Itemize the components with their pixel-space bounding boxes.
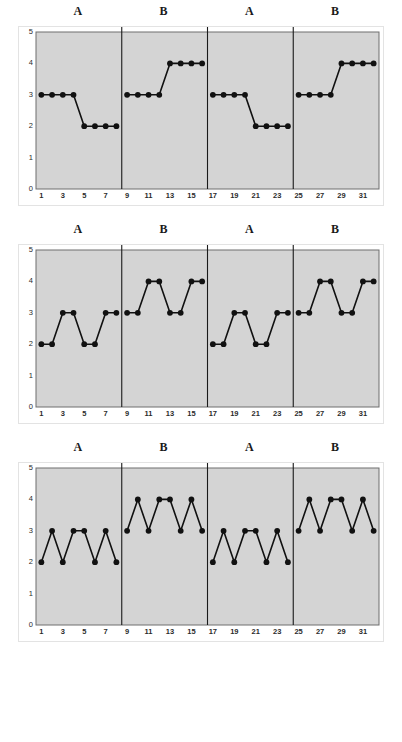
data-point-marker <box>81 123 87 129</box>
phase-label-a-3: A <box>245 4 254 19</box>
data-point-marker <box>264 123 270 129</box>
data-point-marker <box>349 528 355 534</box>
phase-label-b-4: B <box>331 4 339 19</box>
data-point-marker <box>156 279 162 285</box>
phase-label-strip: ABAB <box>0 436 402 462</box>
data-point-marker <box>146 92 152 98</box>
data-point-marker <box>124 92 130 98</box>
data-point-marker <box>124 528 130 534</box>
data-point-marker <box>92 123 98 129</box>
data-point-marker <box>296 92 302 98</box>
data-point-marker <box>317 528 323 534</box>
data-point-marker <box>38 92 44 98</box>
phase-label-strip: ABAB <box>0 0 402 26</box>
data-point-marker <box>167 497 173 503</box>
phase-label-b-4: B <box>331 222 339 237</box>
data-point-marker <box>49 92 55 98</box>
data-point-marker <box>135 92 141 98</box>
chart-frame: 012345135791113151719212325272931 <box>18 26 384 206</box>
data-point-marker <box>92 559 98 565</box>
data-point-marker <box>242 310 248 316</box>
data-point-marker <box>113 310 119 316</box>
data-point-marker <box>253 341 259 347</box>
data-point-marker <box>231 559 237 565</box>
data-point-marker <box>199 61 205 67</box>
data-point-marker <box>199 528 205 534</box>
data-point-marker <box>306 92 312 98</box>
data-point-marker <box>189 61 195 67</box>
data-point-marker <box>296 310 302 316</box>
data-point-marker <box>71 92 77 98</box>
data-point-marker <box>103 528 109 534</box>
data-point-marker <box>49 528 55 534</box>
data-point-marker <box>49 341 55 347</box>
data-point-marker <box>306 310 312 316</box>
data-point-marker <box>221 528 227 534</box>
data-point-marker <box>146 279 152 285</box>
data-point-marker <box>339 61 345 67</box>
phase-label-strip: ABAB <box>0 218 402 244</box>
data-point-marker <box>210 92 216 98</box>
panel-spacer <box>0 206 402 218</box>
chart-panel-3: ABAB012345135791113151719212325272931 <box>0 436 402 654</box>
data-point-marker <box>242 92 248 98</box>
data-point-marker <box>349 310 355 316</box>
data-point-marker <box>167 310 173 316</box>
phase-label-a-3: A <box>245 440 254 455</box>
phase-label-b-2: B <box>160 440 168 455</box>
data-point-marker <box>135 310 141 316</box>
data-point-marker <box>339 310 345 316</box>
data-point-marker <box>210 559 216 565</box>
data-point-marker <box>60 559 66 565</box>
data-point-marker <box>71 310 77 316</box>
data-point-marker <box>60 92 66 98</box>
phase-label-a-1: A <box>73 4 82 19</box>
data-point-marker <box>221 92 227 98</box>
data-point-marker <box>156 92 162 98</box>
data-point-marker <box>328 497 334 503</box>
phase-label-b-4: B <box>331 440 339 455</box>
data-point-marker <box>253 123 259 129</box>
data-point-marker <box>349 61 355 67</box>
data-point-marker <box>274 310 280 316</box>
data-point-marker <box>103 310 109 316</box>
data-point-marker <box>328 279 334 285</box>
data-point-marker <box>81 341 87 347</box>
data-point-marker <box>328 92 334 98</box>
figure-page: ABAB012345135791113151719212325272931ABA… <box>0 0 402 742</box>
data-point-marker <box>371 279 377 285</box>
phase-label-b-2: B <box>160 222 168 237</box>
data-point-marker <box>156 497 162 503</box>
plot-area <box>19 27 385 207</box>
data-point-marker <box>317 279 323 285</box>
chart-panel-2: ABAB012345135791113151719212325272931 <box>0 218 402 436</box>
data-point-marker <box>231 92 237 98</box>
data-point-marker <box>371 528 377 534</box>
chart-panels-container: ABAB012345135791113151719212325272931ABA… <box>0 0 402 654</box>
data-point-marker <box>371 61 377 67</box>
phase-label-a-1: A <box>73 222 82 237</box>
data-point-marker <box>285 310 291 316</box>
data-point-marker <box>210 341 216 347</box>
chart-frame: 012345135791113151719212325272931 <box>18 462 384 642</box>
plot-area <box>19 463 385 643</box>
phase-label-a-1: A <box>73 440 82 455</box>
data-point-marker <box>264 341 270 347</box>
chart-frame: 012345135791113151719212325272931 <box>18 244 384 424</box>
data-point-marker <box>264 559 270 565</box>
data-point-marker <box>296 528 302 534</box>
data-point-marker <box>189 279 195 285</box>
data-point-marker <box>146 528 152 534</box>
data-point-marker <box>360 279 366 285</box>
data-point-marker <box>60 310 66 316</box>
data-point-marker <box>113 123 119 129</box>
data-point-marker <box>274 528 280 534</box>
data-point-marker <box>253 528 259 534</box>
data-point-marker <box>38 341 44 347</box>
data-point-marker <box>178 61 184 67</box>
data-point-marker <box>71 528 77 534</box>
data-point-marker <box>231 310 237 316</box>
data-point-marker <box>285 123 291 129</box>
data-point-marker <box>135 497 141 503</box>
data-point-marker <box>178 310 184 316</box>
